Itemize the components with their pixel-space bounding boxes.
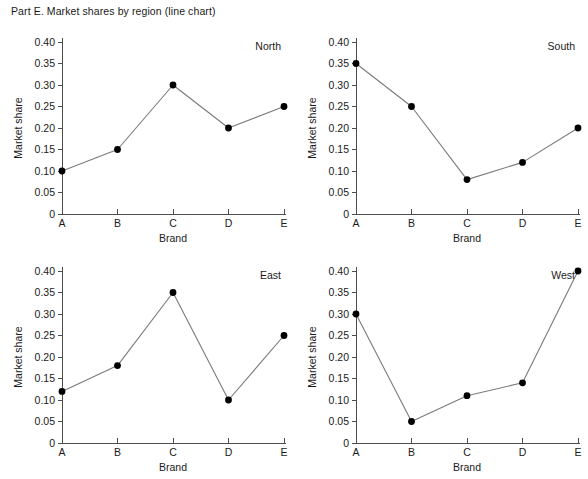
figure-root: Part E. Market shares by region (line ch… bbox=[0, 0, 588, 479]
data-point-marker bbox=[575, 125, 582, 132]
x-axis-title: Brand bbox=[453, 461, 481, 473]
y-tick-label: 0.15 bbox=[329, 372, 350, 384]
data-point-marker bbox=[225, 397, 232, 404]
y-tick-label: 0.25 bbox=[329, 329, 350, 341]
data-point-marker bbox=[353, 311, 360, 318]
y-tick-label: 0.30 bbox=[35, 79, 56, 91]
y-tick-label: 0.05 bbox=[35, 415, 56, 427]
y-axis-title: Market share bbox=[12, 326, 24, 387]
data-point-marker bbox=[464, 392, 471, 399]
x-tick-label: D bbox=[225, 217, 233, 229]
x-tick-label: A bbox=[352, 446, 359, 458]
x-tick-label: E bbox=[280, 446, 287, 458]
y-tick-label: 0.25 bbox=[329, 100, 350, 112]
y-tick-label: 0.15 bbox=[35, 372, 56, 384]
x-tick-label: E bbox=[574, 446, 581, 458]
data-point-marker bbox=[464, 176, 471, 183]
x-tick-label: B bbox=[114, 446, 121, 458]
y-tick-label: 0.30 bbox=[329, 79, 350, 91]
panel-region-label: South bbox=[548, 40, 576, 52]
chart-south: 00.050.100.150.200.250.300.350.40ABCDEBr… bbox=[294, 21, 588, 250]
y-tick-label: 0.10 bbox=[35, 165, 56, 177]
x-axis-title: Brand bbox=[159, 232, 187, 244]
data-point-marker bbox=[225, 125, 232, 132]
y-tick-label: 0.05 bbox=[329, 415, 350, 427]
panel-west: 00.050.100.150.200.250.300.350.40ABCDEBr… bbox=[294, 250, 588, 479]
data-point-marker bbox=[170, 82, 177, 89]
data-point-marker bbox=[59, 168, 66, 175]
x-tick-label: D bbox=[519, 217, 527, 229]
data-point-marker bbox=[114, 362, 121, 369]
x-tick-label: C bbox=[169, 446, 177, 458]
panel-east: 00.050.100.150.200.250.300.350.40ABCDEBr… bbox=[0, 250, 294, 479]
series-line bbox=[62, 85, 284, 171]
data-point-marker bbox=[519, 159, 526, 166]
y-tick-label: 0.35 bbox=[35, 57, 56, 69]
x-tick-label: B bbox=[408, 446, 415, 458]
y-axis-title: Market share bbox=[306, 97, 318, 158]
y-tick-label: 0.10 bbox=[329, 165, 350, 177]
data-point-marker bbox=[59, 388, 66, 395]
data-point-marker bbox=[408, 103, 415, 110]
y-tick-label: 0.40 bbox=[35, 265, 56, 277]
series-line bbox=[62, 293, 284, 401]
y-tick-label: 0.30 bbox=[35, 308, 56, 320]
x-tick-label: A bbox=[352, 217, 359, 229]
y-tick-label: 0.30 bbox=[329, 308, 350, 320]
chart-north: 00.050.100.150.200.250.300.350.40ABCDEBr… bbox=[0, 21, 294, 250]
y-tick-label: 0.05 bbox=[329, 186, 350, 198]
y-tick-label: 0.35 bbox=[329, 286, 350, 298]
y-tick-label: 0.40 bbox=[329, 36, 350, 48]
panel-region-label: North bbox=[255, 40, 281, 52]
x-axis-title: Brand bbox=[453, 232, 481, 244]
y-tick-label: 0.20 bbox=[35, 122, 56, 134]
data-point-marker bbox=[353, 60, 360, 67]
y-tick-label: 0.20 bbox=[329, 122, 350, 134]
panel-south: 00.050.100.150.200.250.300.350.40ABCDEBr… bbox=[294, 21, 588, 250]
y-tick-label: 0.40 bbox=[35, 36, 56, 48]
y-tick-label: 0.25 bbox=[35, 329, 56, 341]
chart-west: 00.050.100.150.200.250.300.350.40ABCDEBr… bbox=[294, 250, 588, 479]
data-point-marker bbox=[170, 289, 177, 296]
panel-region-label: West bbox=[551, 269, 575, 281]
y-tick-label: 0.35 bbox=[329, 57, 350, 69]
x-tick-label: E bbox=[280, 217, 287, 229]
data-point-marker bbox=[114, 146, 121, 153]
y-tick-label: 0.10 bbox=[329, 394, 350, 406]
y-tick-label: 0 bbox=[49, 437, 55, 449]
x-tick-label: A bbox=[58, 217, 65, 229]
y-axis-title: Market share bbox=[12, 97, 24, 158]
x-tick-label: B bbox=[408, 217, 415, 229]
data-point-marker bbox=[281, 332, 288, 339]
data-point-marker bbox=[408, 418, 415, 425]
x-tick-label: C bbox=[463, 446, 471, 458]
y-tick-label: 0 bbox=[49, 208, 55, 220]
x-tick-label: A bbox=[58, 446, 65, 458]
y-tick-label: 0.15 bbox=[329, 143, 350, 155]
data-point-marker bbox=[519, 379, 526, 386]
y-tick-label: 0.40 bbox=[329, 265, 350, 277]
panel-north: 00.050.100.150.200.250.300.350.40ABCDEBr… bbox=[0, 21, 294, 250]
data-point-marker bbox=[575, 268, 582, 275]
x-tick-label: D bbox=[519, 446, 527, 458]
y-tick-label: 0.05 bbox=[35, 186, 56, 198]
panel-region-label: East bbox=[260, 269, 281, 281]
y-tick-label: 0.20 bbox=[329, 351, 350, 363]
x-tick-label: D bbox=[225, 446, 233, 458]
y-tick-label: 0.20 bbox=[35, 351, 56, 363]
x-tick-label: E bbox=[574, 217, 581, 229]
y-tick-label: 0 bbox=[343, 437, 349, 449]
x-tick-label: C bbox=[463, 217, 471, 229]
y-tick-label: 0.10 bbox=[35, 394, 56, 406]
chart-east: 00.050.100.150.200.250.300.350.40ABCDEBr… bbox=[0, 250, 294, 479]
y-tick-label: 0.15 bbox=[35, 143, 56, 155]
x-tick-label: B bbox=[114, 217, 121, 229]
y-axis-title: Market share bbox=[306, 326, 318, 387]
data-point-marker bbox=[281, 103, 288, 110]
y-tick-label: 0.25 bbox=[35, 100, 56, 112]
y-tick-label: 0 bbox=[343, 208, 349, 220]
series-line bbox=[356, 64, 578, 180]
x-axis-title: Brand bbox=[159, 461, 187, 473]
figure-title: Part E. Market shares by region (line ch… bbox=[11, 5, 216, 17]
x-tick-label: C bbox=[169, 217, 177, 229]
